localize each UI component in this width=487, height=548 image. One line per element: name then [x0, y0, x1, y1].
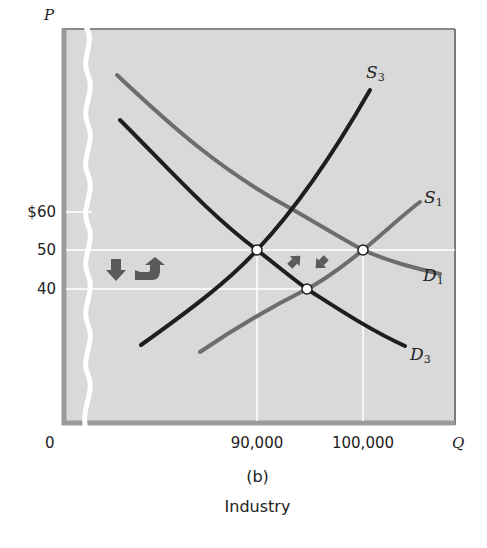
curve-label-d1: D1 — [423, 265, 444, 287]
chart-caption: Industry — [14, 497, 487, 516]
y-tick-60: $60 — [16, 203, 56, 221]
equilibrium-point-s1-d1 — [358, 245, 368, 255]
equilibrium-point-s3-d3 — [252, 245, 262, 255]
curve-label-s3: S3 — [366, 62, 385, 84]
chart-canvas — [0, 0, 487, 548]
equilibrium-point-s1-d3 — [302, 284, 312, 294]
panel-label: (b) — [14, 467, 487, 486]
plot-area — [62, 29, 455, 425]
curve-label-s1: S1 — [424, 187, 443, 209]
y-tick-40: 40 — [16, 280, 56, 298]
quantity-axis-label: Q — [452, 434, 464, 452]
curve-label-d3: D3 — [410, 344, 431, 366]
origin-label: 0 — [45, 434, 55, 452]
price-axis-label: P — [44, 6, 54, 24]
y-tick-50: 50 — [16, 241, 56, 259]
x-tick-100000: 100,000 — [332, 434, 394, 452]
x-tick-90000: 90,000 — [231, 434, 284, 452]
